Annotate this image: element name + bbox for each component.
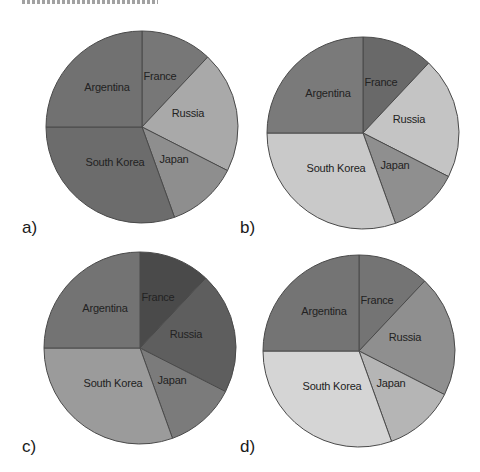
pie-d-svg: [262, 254, 456, 448]
slice-label-japan: Japan: [381, 159, 410, 171]
panel-letter-b: b): [240, 218, 255, 238]
pie-chart-b: France Russia Japan South Korea Argentin…: [266, 36, 460, 230]
panel-letter-a: a): [22, 218, 37, 238]
pie-chart-c: France Russia Japan South Korea Argentin…: [43, 251, 237, 445]
slice-label-south-korea: South Korea: [307, 162, 366, 174]
pie-a-svg: [45, 30, 239, 224]
slice-label-russia: Russia: [393, 113, 425, 125]
slice-label-south-korea: South Korea: [84, 377, 143, 389]
clipped-caption-glyphs: [22, 0, 158, 4]
slice-label-france: France: [360, 294, 393, 306]
pie-c-svg: [43, 251, 237, 445]
pie-slice-argentina: [267, 37, 363, 133]
clipped-caption-text: [22, 0, 162, 4]
slice-label-japan: Japan: [158, 374, 187, 386]
pie-slice-argentina: [263, 255, 359, 351]
pie-b-svg: [266, 36, 460, 230]
pie-chart-d: France Russia Japan South Korea Argentin…: [262, 254, 456, 448]
slice-label-france: France: [141, 291, 174, 303]
pie-chart-a: France Russia Japan South Korea Argentin…: [45, 30, 239, 224]
slice-label-japan: Japan: [377, 377, 406, 389]
slice-label-argentina: Argentina: [82, 302, 127, 314]
slice-label-france: France: [364, 76, 397, 88]
pie-slice-argentina: [46, 31, 142, 127]
pie-slice-argentina: [44, 252, 140, 348]
slice-label-france: France: [143, 70, 176, 82]
slice-label-russia: Russia: [172, 107, 204, 119]
slice-label-argentina: Argentina: [305, 87, 350, 99]
slice-label-south-korea: South Korea: [86, 156, 145, 168]
slice-label-japan: Japan: [160, 153, 189, 165]
slice-label-russia: Russia: [170, 328, 202, 340]
slice-label-argentina: Argentina: [84, 81, 129, 93]
panel-letter-c: c): [22, 437, 36, 457]
panel-letter-d: d): [240, 437, 255, 457]
slice-label-russia: Russia: [389, 331, 421, 343]
slice-label-south-korea: South Korea: [303, 380, 362, 392]
slice-label-argentina: Argentina: [301, 305, 346, 317]
